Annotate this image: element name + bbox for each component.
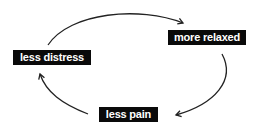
node-more-relaxed: more relaxed <box>168 30 246 45</box>
arrow-pain-to-distress <box>40 74 88 114</box>
node-less-distress: less distress <box>13 50 91 65</box>
cycle-diagram: more relaxed less pain less distress <box>0 0 257 131</box>
node-less-pain: less pain <box>99 107 158 122</box>
arrow-relaxed-to-pain <box>176 54 226 115</box>
arrow-distress-to-relaxed <box>48 14 183 45</box>
